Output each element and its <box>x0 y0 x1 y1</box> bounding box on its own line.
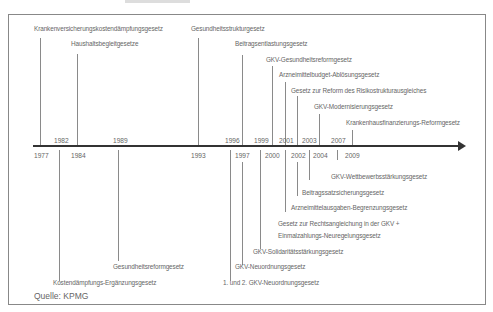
year-label-2001: 2001 <box>279 137 294 144</box>
law-label-2002b: Arzneimittelausgaben-Begrenzungsgesetz <box>291 204 407 211</box>
tick-line-1984 <box>59 150 60 281</box>
tick-line-2007 <box>352 130 353 145</box>
law-label-2000a: Gesetz zur Rechtsangleichung in der GKV … <box>278 220 399 227</box>
year-label-1977: 1977 <box>34 152 49 159</box>
law-label-1999: GKV-Gesundheitsreformgesetz <box>266 56 352 63</box>
law-label-2001b: Gesetz zur Reform des Risikostrukturausg… <box>291 87 426 94</box>
law-label-1997c: 1. und 2. GKV-Neuordnungsgesetz <box>223 279 319 286</box>
year-label-2002: 2002 <box>291 152 306 159</box>
tick-line-2003 <box>319 114 320 145</box>
tick-line-1996 <box>242 55 243 145</box>
year-label-1982: 1982 <box>54 137 69 144</box>
law-label-1977: Krankenversicherungskostendämpfungsgeset… <box>34 25 163 32</box>
year-label-1996: 1996 <box>225 137 240 144</box>
law-label-1997a: GKV-Solidaritätsstärkungsgesetz <box>253 248 343 255</box>
tick-line-1997b <box>242 162 243 265</box>
tick-line-2001a <box>285 82 286 145</box>
law-label-2007: Krankenhausfinanzierungs-Reformgesetz <box>346 119 460 126</box>
law-label-1982: Haushaltsbegleitgesetze <box>71 40 138 47</box>
tick-line-2004 <box>309 150 310 180</box>
law-label-1996: Beitragsentlastungsgesetz <box>235 40 307 47</box>
year-label-2004: 2004 <box>313 152 328 159</box>
tick-line-1993 <box>198 38 199 145</box>
arrow-head-icon <box>458 141 466 151</box>
year-label-2007: 2007 <box>331 137 346 144</box>
tick-line-1989 <box>118 150 119 261</box>
cropped-title-fragment <box>125 0 190 3</box>
law-label-2003: GKV-Modernisierungsgesetz <box>314 103 393 110</box>
year-label-1989: 1989 <box>113 137 128 144</box>
law-label-1997b: GKV-Neuordnungsgesetz <box>235 263 305 270</box>
tick-line-1982 <box>77 54 78 145</box>
law-label-1993: Gesundheitsstrukturgesetz <box>191 25 265 32</box>
timeline-axis <box>33 145 459 147</box>
year-label-2009: 2009 <box>345 152 360 159</box>
year-label-1999: 1999 <box>254 137 269 144</box>
tick-line-2000 <box>260 150 261 249</box>
law-label-1989: Gesundheitsreformgesetz <box>113 263 184 270</box>
law-label-1984: Kostendämpfungs-Ergänzungsgesetz <box>53 279 156 286</box>
year-label-2003: 2003 <box>302 137 317 144</box>
tick-line-2002a <box>285 150 286 212</box>
law-label-2002a: Beitragssatzsicherungsgesetz <box>302 189 384 196</box>
law-label-2000b: Einmalzahlungs-Neuregelungsgesetz <box>278 232 381 239</box>
tick-line-1997a <box>230 150 231 281</box>
tick-line-1999 <box>272 66 273 145</box>
source-caption: Quelle: KPMG <box>34 291 88 301</box>
law-label-2001a: Arzneimittelbudget-Ablösungsgesetz <box>279 71 379 78</box>
law-label-2009: GKV-Wettbewerbsstärkungsgesetz <box>331 173 427 180</box>
year-label-2000: 2000 <box>265 152 280 159</box>
year-label-1997: 1997 <box>235 152 250 159</box>
year-label-1993: 1993 <box>191 152 206 159</box>
year-label-1984: 1984 <box>71 152 86 159</box>
tick-line-2001b <box>297 96 298 145</box>
tick-line-2009 <box>337 150 338 160</box>
tick-line-1977 <box>40 38 41 145</box>
tick-line-2002b <box>297 162 298 196</box>
timeline-frame <box>8 14 486 305</box>
